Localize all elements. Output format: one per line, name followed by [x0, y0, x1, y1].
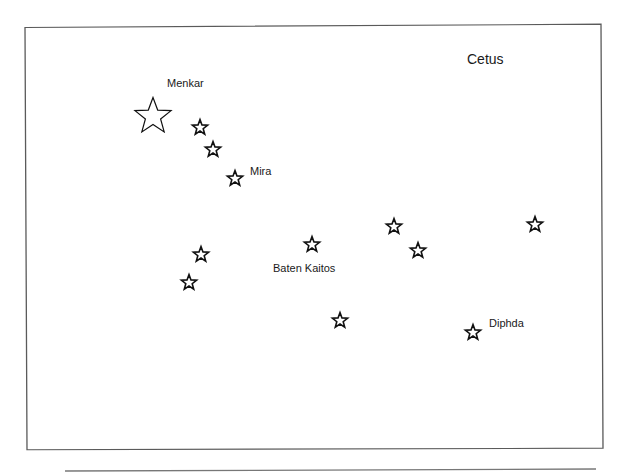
star-icon: [386, 219, 401, 233]
star-label-diphda: Diphda: [489, 318, 524, 329]
star-label-baten-kaitos: Baten Kaitos: [273, 263, 335, 274]
constellation-title: Cetus: [467, 52, 504, 66]
star-icon: [205, 142, 220, 156]
chart-border: [25, 24, 603, 450]
star-chart-canvas: [0, 0, 618, 473]
star-icon: [332, 313, 347, 327]
star-diphda-icon: [465, 325, 480, 339]
star-icon: [181, 275, 196, 289]
star-label-menkar: Menkar: [167, 78, 204, 89]
star-icon: [410, 243, 425, 257]
star-baten-kaitos-icon: [304, 237, 319, 251]
star-icon: [193, 247, 208, 261]
star-menkar-icon: [135, 98, 171, 132]
star-icon: [192, 120, 207, 134]
star-label-mira: Mira: [250, 166, 271, 177]
star-mira-icon: [227, 171, 242, 185]
stars-layer: [135, 98, 543, 340]
star-icon: [527, 217, 542, 231]
bottom-rule: [65, 469, 596, 471]
